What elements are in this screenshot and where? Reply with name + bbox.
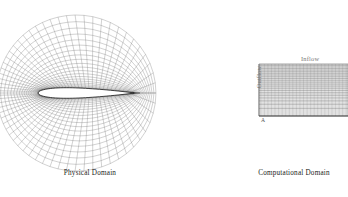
outflow-boundary-label: Outflow (255, 60, 262, 94)
computational-domain-caption: Computational Domain (240, 169, 348, 177)
physical-domain-panel (0, 0, 180, 197)
physical-domain-caption: Physical Domain (0, 169, 180, 177)
corner-point-label: A (261, 117, 265, 123)
physical-domain-mesh (0, 0, 180, 197)
inflow-boundary-label: Inflow (301, 55, 319, 62)
computational-domain-mesh (240, 0, 348, 197)
figure-canvas: Physical Domain Inflow Outflow A Computa… (0, 0, 348, 197)
computational-domain-panel (240, 0, 348, 197)
